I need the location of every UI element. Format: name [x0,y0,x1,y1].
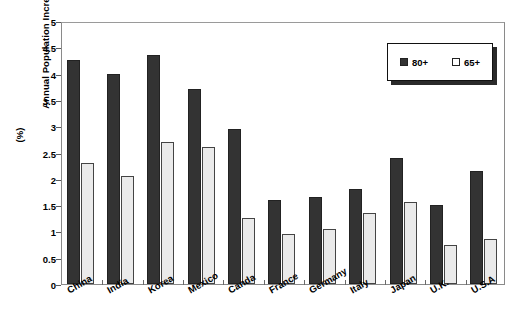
bar-chart: Annual Population Increase (%) 00.511.52… [0,0,519,333]
bar-group [223,23,263,284]
x-axis-tick-mark [425,280,426,285]
bar-65-plus [161,142,174,284]
bar-80-plus [268,200,281,284]
y-axis-tick-label: 4.5 [43,43,56,54]
chart-legend: 80+ 65+ [387,43,493,81]
bar-group [143,23,183,284]
bar-group [102,23,142,284]
bar-group [345,23,385,284]
x-axis-tick-mark [264,280,265,285]
x-axis-tick-mark [102,280,103,285]
y-axis-title-units: (%) [12,55,26,215]
x-axis-tick-mark [385,280,386,285]
y-axis-tick-labels: 00.511.522.533.544.55 [32,22,56,285]
bar-80-plus [390,158,403,284]
bar-65-plus [81,163,94,284]
bar-80-plus [430,205,443,284]
bar-65-plus [363,213,376,284]
dark-square-icon [400,58,408,66]
legend-item-80-plus: 80+ [400,57,428,68]
bar-80-plus [67,60,80,284]
y-axis-tick-label: 2.5 [43,148,56,159]
y-axis-tick-label: 0.5 [43,253,56,264]
legend-label-80-plus: 80+ [412,57,428,68]
light-square-icon [452,58,460,66]
bar-80-plus [107,74,120,284]
bar-65-plus [202,147,215,284]
bar-80-plus [228,129,241,284]
bar-80-plus [309,197,322,284]
bar-group [304,23,344,284]
bar-65-plus [121,176,134,284]
x-axis-tick-mark [345,280,346,285]
legend-label-65-plus: 65+ [464,57,480,68]
bar-80-plus [349,189,362,284]
x-axis-tick-mark [223,280,224,285]
x-axis-tick-mark [466,280,467,285]
bar-80-plus [470,171,483,284]
x-axis-tick-mark [143,280,144,285]
bar-80-plus [188,89,201,284]
bar-group [264,23,304,284]
bar-group [62,23,102,284]
y-axis-tick-label: 1.5 [43,201,56,212]
x-axis-tick-mark [183,280,184,285]
x-axis-tick-labels: ChinaIndiaKoreaMexicoCandaFranceGermanyI… [61,286,505,333]
bar-group [183,23,223,284]
bar-80-plus [147,55,160,284]
x-axis-tick-mark [304,280,305,285]
y-axis-tick-label: 3.5 [43,95,56,106]
legend-item-65-plus: 65+ [452,57,480,68]
y-axis-title-line2: (%) [14,128,25,143]
